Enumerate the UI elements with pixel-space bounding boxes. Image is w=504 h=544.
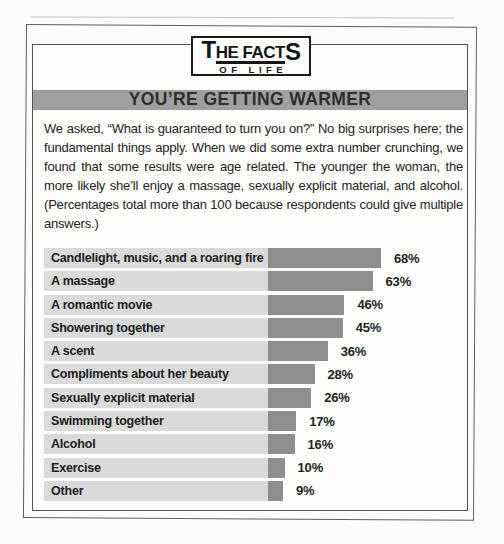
chart-row: A romantic movie46% [44, 295, 466, 315]
bar-label: A massage [51, 274, 115, 288]
logo-he-fact: HE FACT [216, 44, 285, 64]
bar-label-band: A massage [44, 271, 268, 291]
bar-label-band: Exercise [44, 458, 268, 478]
chart-row: Alcohol16% [44, 434, 466, 454]
bar-chart: Candlelight, music, and a roaring fire68… [44, 248, 466, 504]
bar [268, 411, 296, 431]
logo-line1: T HE FACT S [202, 38, 301, 64]
bar-label: Candlelight, music, and a roaring fire [51, 251, 264, 265]
facts-of-life-logo: T HE FACT S OF LIFE [191, 36, 311, 76]
bar-value: 17% [309, 414, 334, 429]
bar-value: 26% [324, 390, 349, 405]
logo-line2: OF LIFE [215, 65, 287, 75]
bar-label: Compliments about her beauty [51, 367, 229, 381]
bar-value: 9% [296, 483, 314, 498]
bar-label-band: Sexually explicit material [44, 388, 268, 408]
bar-value: 28% [328, 367, 353, 382]
content-frame: YOU’RE GETTING WARMER We asked, “What is… [32, 44, 468, 511]
bar [268, 458, 285, 478]
bar-label: Sexually explicit material [51, 391, 195, 405]
bar-label: A scent [51, 344, 94, 358]
bar-label-band: Candlelight, music, and a roaring fire [44, 248, 268, 268]
bar [268, 388, 311, 408]
bar-label-band: Showering together [44, 318, 268, 338]
chart-row: Swimming together17% [44, 411, 466, 431]
chart-row: A scent36% [44, 341, 466, 361]
bar [268, 271, 373, 291]
bar [268, 318, 343, 338]
bar-label: Alcohol [51, 437, 95, 451]
chart-row: Candlelight, music, and a roaring fire68… [44, 248, 466, 268]
chart-row: Compliments about her beauty28% [44, 364, 466, 384]
chart-row: Sexually explicit material26% [44, 388, 466, 408]
bar-label: Swimming together [51, 414, 164, 428]
bar [268, 248, 381, 268]
bar [268, 481, 283, 501]
chart-row: A massage63% [44, 271, 466, 291]
bar-value: 16% [308, 437, 333, 452]
bar-value: 10% [298, 460, 323, 475]
chart-row: Showering together45% [44, 318, 466, 338]
bar-label-band: A scent [44, 341, 268, 361]
bar-value: 36% [341, 344, 366, 359]
bar-value: 68% [394, 251, 419, 266]
bar-label: Showering together [51, 321, 165, 335]
section-header-bar: YOU’RE GETTING WARMER [33, 90, 467, 110]
bar [268, 295, 344, 315]
chart-row: Other9% [44, 481, 466, 501]
logo-letter-s: S [285, 40, 301, 64]
bar [268, 341, 328, 361]
bar [268, 434, 295, 454]
bar-value: 46% [357, 297, 382, 312]
bar-label-band: Swimming together [44, 411, 268, 431]
page-top-hairline [30, 16, 454, 18]
section-title: YOU’RE GETTING WARMER [129, 91, 372, 109]
bar-label: A romantic movie [51, 298, 152, 312]
scanned-page: YOU’RE GETTING WARMER We asked, “What is… [0, 0, 504, 544]
bar-value: 45% [356, 320, 381, 335]
bar-label-band: A romantic movie [44, 295, 268, 315]
bar-label: Exercise [51, 461, 101, 475]
bar-label-band: Other [44, 481, 268, 501]
logo-letter-t: T [202, 38, 216, 62]
intro-paragraph: We asked, “What is guaranteed to turn yo… [44, 119, 463, 233]
chart-row: Exercise10% [44, 458, 466, 478]
bar [268, 364, 315, 384]
bar-label: Other [51, 484, 83, 498]
bar-label-band: Compliments about her beauty [44, 364, 268, 384]
bar-label-band: Alcohol [44, 434, 268, 454]
bar-value: 63% [386, 274, 411, 289]
